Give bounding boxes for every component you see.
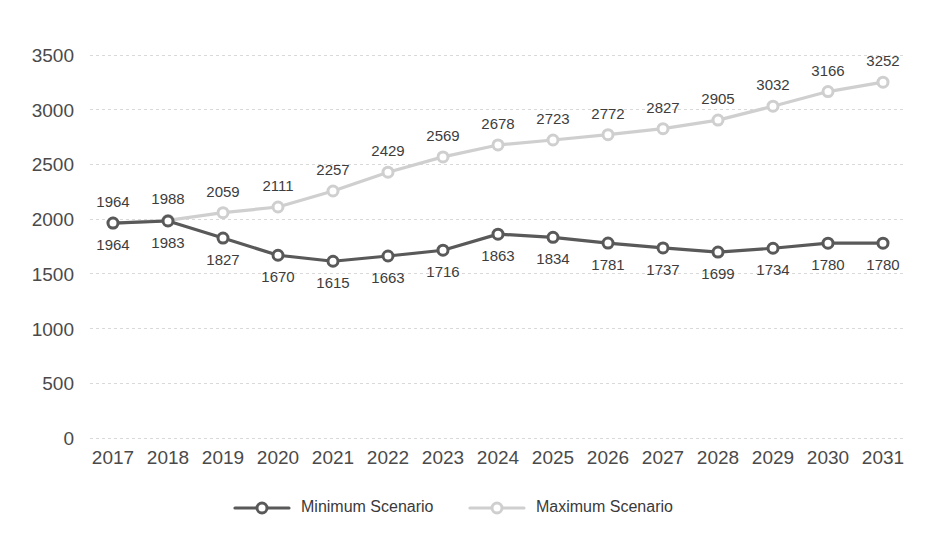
data-label: 1699 (701, 265, 734, 282)
chart-legend: Minimum ScenarioMaximum Scenario (235, 498, 673, 515)
x-tick-label: 2025 (532, 447, 574, 468)
data-point-marker (328, 186, 338, 196)
data-point-marker (823, 87, 833, 97)
data-label: 1834 (536, 250, 569, 267)
data-point-marker (438, 152, 448, 162)
x-tick-label: 2022 (367, 447, 409, 468)
data-label: 1615 (316, 274, 349, 291)
data-label: 1827 (206, 251, 239, 268)
data-label: 2569 (426, 127, 459, 144)
chart-canvas: 0500100015002000250030003500 20172018201… (0, 0, 930, 548)
data-label: 1964 (96, 236, 129, 253)
y-tick-label: 2000 (32, 209, 74, 230)
data-label: 2723 (536, 110, 569, 127)
data-point-marker (218, 233, 228, 243)
data-point-marker (603, 130, 613, 140)
data-label: 1781 (591, 256, 624, 273)
data-point-marker (273, 202, 283, 212)
data-point-marker (548, 232, 558, 242)
data-point-marker (768, 243, 778, 253)
data-point-marker (163, 216, 173, 226)
x-tick-label: 2017 (92, 447, 134, 468)
line-chart: 0500100015002000250030003500 20172018201… (0, 0, 930, 548)
data-point-marker (658, 124, 668, 134)
data-label: 3166 (811, 62, 844, 79)
x-tick-label: 2026 (587, 447, 629, 468)
data-point-marker (878, 77, 888, 87)
data-point-marker (713, 115, 723, 125)
data-label: 2772 (591, 105, 624, 122)
y-tick-label: 1500 (32, 264, 74, 285)
data-point-marker (823, 238, 833, 248)
x-tick-label: 2030 (807, 447, 849, 468)
x-tick-label: 2029 (752, 447, 794, 468)
data-label: 1988 (151, 190, 184, 207)
y-axis-tick-labels: 0500100015002000250030003500 (32, 45, 74, 449)
y-tick-label: 3000 (32, 100, 74, 121)
data-label: 1737 (646, 261, 679, 278)
legend-marker-icon (257, 503, 267, 513)
x-tick-label: 2018 (147, 447, 189, 468)
y-tick-label: 2500 (32, 154, 74, 175)
x-tick-label: 2020 (257, 447, 299, 468)
data-series-group (108, 77, 888, 266)
data-label: 1780 (866, 256, 899, 273)
data-label: 2678 (481, 115, 514, 132)
data-point-marker (273, 250, 283, 260)
data-point-marker (493, 140, 503, 150)
data-label: 1670 (261, 268, 294, 285)
data-label: 2059 (206, 183, 239, 200)
data-point-marker (438, 245, 448, 255)
data-label: 2905 (701, 90, 734, 107)
data-label: 1964 (96, 193, 129, 210)
data-point-marker (658, 243, 668, 253)
data-label: 2257 (316, 161, 349, 178)
data-label: 3252 (866, 52, 899, 69)
data-point-marker (548, 135, 558, 145)
data-label: 2111 (262, 177, 293, 194)
x-tick-label: 2021 (312, 447, 354, 468)
y-tick-label: 0 (63, 428, 74, 449)
x-tick-label: 2031 (862, 447, 904, 468)
data-point-labels: 1964198318271670161516631716186318341781… (96, 52, 899, 291)
data-point-marker (603, 238, 613, 248)
x-axis-tick-labels: 2017201820192020202120222023202420252026… (92, 447, 904, 468)
data-point-marker (713, 247, 723, 257)
data-point-marker (108, 218, 118, 228)
data-point-marker (878, 238, 888, 248)
legend-label[interactable]: Minimum Scenario (301, 498, 434, 515)
x-tick-label: 2024 (477, 447, 520, 468)
data-point-marker (328, 256, 338, 266)
data-point-marker (768, 101, 778, 111)
data-point-marker (493, 229, 503, 239)
y-tick-label: 1000 (32, 319, 74, 340)
x-tick-label: 2019 (202, 447, 244, 468)
x-tick-label: 2027 (642, 447, 684, 468)
data-label: 2827 (646, 99, 679, 116)
data-label: 1863 (481, 247, 514, 264)
data-label: 2429 (371, 142, 404, 159)
data-label: 1716 (426, 263, 459, 280)
data-label: 1734 (756, 261, 789, 278)
legend-label[interactable]: Maximum Scenario (536, 498, 673, 515)
legend-marker-icon (492, 503, 502, 513)
x-tick-label: 2028 (697, 447, 739, 468)
y-tick-label: 500 (42, 373, 74, 394)
x-tick-label: 2023 (422, 447, 464, 468)
data-label: 1780 (811, 256, 844, 273)
data-label: 3032 (756, 76, 789, 93)
data-point-marker (383, 167, 393, 177)
data-label: 1983 (151, 234, 184, 251)
y-tick-label: 3500 (32, 45, 74, 66)
data-point-marker (218, 208, 228, 218)
data-point-marker (383, 251, 393, 261)
data-label: 1663 (371, 269, 404, 286)
